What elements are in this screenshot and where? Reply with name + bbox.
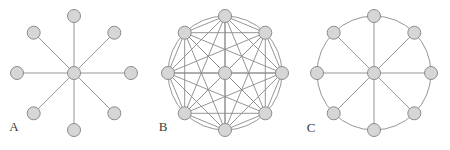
panel-b-peripheral-node: [259, 26, 272, 39]
panel-a-peripheral-node: [27, 107, 40, 120]
panel-b-spoke: [185, 73, 225, 113]
panel-a: A: [9, 10, 137, 137]
panel-b-peripheral-node: [259, 107, 272, 120]
panel-c-peripheral-node: [368, 10, 381, 23]
panel-a-peripheral-node: [108, 107, 121, 120]
panel-a-peripheral-node: [125, 67, 138, 80]
panel-a-peripheral-node: [108, 26, 121, 39]
panel-b-peripheral-node: [162, 67, 175, 80]
panel-a-peripheral-node: [68, 124, 81, 137]
panel-b-spoke: [185, 33, 225, 73]
panel-c-peripheral-node: [311, 67, 324, 80]
panel-a-peripheral-node: [11, 67, 24, 80]
panel-b-center-node: [219, 67, 232, 80]
panel-c: C: [307, 10, 438, 137]
panel-c-peripheral-node: [425, 67, 438, 80]
panel-a-label: A: [9, 119, 19, 134]
panel-a-peripheral-node: [27, 26, 40, 39]
panel-c-label: C: [307, 120, 316, 135]
panel-c-spoke: [334, 33, 374, 73]
panel-c-peripheral-node: [368, 124, 381, 137]
panel-b-spoke: [225, 33, 265, 73]
panel-c-spoke: [374, 73, 414, 113]
panel-c-spoke: [334, 73, 374, 113]
panel-b-peripheral-node: [219, 124, 232, 137]
panel-a-center-node: [68, 67, 81, 80]
panel-c-peripheral-node: [408, 26, 421, 39]
panel-c-peripheral-node: [408, 107, 421, 120]
panel-a-spoke: [34, 73, 74, 113]
panel-a-spoke: [34, 33, 74, 73]
panel-b-peripheral-node: [276, 67, 289, 80]
panel-b-peripheral-node: [178, 107, 191, 120]
panel-b-peripheral-node: [178, 26, 191, 39]
graph-figure-canvas: ABC: [0, 0, 450, 150]
panel-c-peripheral-node: [327, 107, 340, 120]
panel-a-spoke: [74, 33, 114, 73]
panel-b-label: B: [159, 119, 168, 134]
panel-c-center-node: [368, 67, 381, 80]
panel-b-peripheral-node: [219, 10, 232, 23]
panel-a-peripheral-node: [68, 10, 81, 23]
panel-c-peripheral-node: [327, 26, 340, 39]
panel-c-spoke: [374, 33, 414, 73]
panel-b: B: [159, 10, 289, 137]
figure-root: ABC: [0, 0, 450, 150]
panel-a-spoke: [74, 73, 114, 113]
panel-b-spoke: [225, 73, 265, 113]
